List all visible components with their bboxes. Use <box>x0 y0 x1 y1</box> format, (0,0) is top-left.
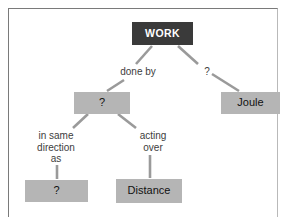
node-joule[interactable]: Joule <box>221 92 280 114</box>
edge-label-question: ? <box>196 66 218 78</box>
diagram-canvas: WORK ? Joule ? Distance done by ? in sam… <box>0 0 308 217</box>
node-work[interactable]: WORK <box>132 22 193 45</box>
node-question-middle[interactable]: ? <box>74 92 130 114</box>
node-question-bottom[interactable]: ? <box>25 180 88 202</box>
edge-label-done-by: done by <box>110 66 166 78</box>
node-distance[interactable]: Distance <box>116 179 182 203</box>
edge-label-acting-over: acting over <box>124 130 182 153</box>
edge-label-in-same-direction-as: in same direction as <box>20 130 92 165</box>
